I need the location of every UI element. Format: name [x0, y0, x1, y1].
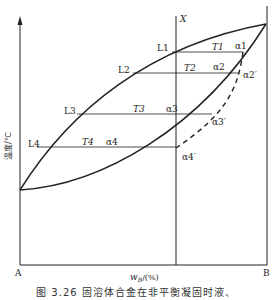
label-l2: L2 [118, 65, 130, 75]
label-t1: T1 [212, 42, 224, 52]
x-axis-label: wB/(%) [130, 272, 159, 283]
phase-diagram: X L1 L2 L3 L4 T1 T2 T3 T4 α1 α2 α3 α4 α2… [0, 0, 272, 300]
y-axis-arrow-icon [18, 16, 23, 25]
label-l4: L4 [28, 139, 40, 149]
label-a: A [14, 268, 22, 278]
label-alpha4-prime: α4′ [182, 152, 196, 162]
label-t4: T4 [82, 137, 94, 147]
y-axis-label: 温度/℃ [3, 132, 13, 160]
label-alpha1: α1 [235, 41, 247, 51]
label-l3: L3 [64, 106, 76, 116]
label-t2: T2 [184, 63, 196, 73]
figure-caption: 图 3.26 固溶体合金在非平衡凝固时液、 [0, 284, 272, 299]
label-alpha3: α3 [166, 104, 178, 114]
label-alpha2-prime: α2′ [243, 70, 257, 80]
label-alpha4: α4 [106, 137, 118, 147]
label-l1: L1 [157, 43, 169, 53]
composition-line-label: X [179, 14, 187, 24]
label-t3: T3 [133, 104, 145, 114]
label-alpha3-prime: α3′ [212, 117, 226, 127]
label-b: B [263, 268, 270, 278]
label-alpha2: α2 [213, 62, 225, 72]
